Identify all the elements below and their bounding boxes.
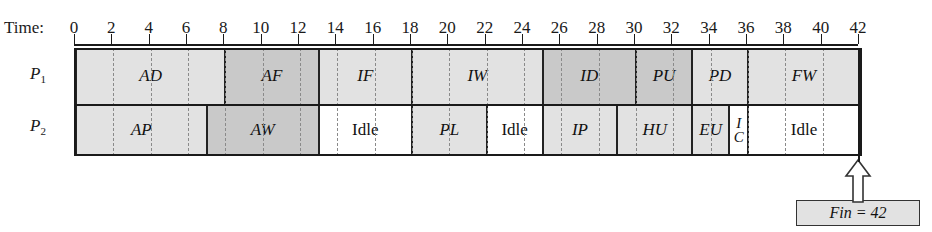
grid-dashed-line xyxy=(487,48,488,156)
segment-label-part: I xyxy=(736,116,741,130)
row-separator-2 xyxy=(76,154,860,156)
grid-dashed-line xyxy=(263,48,264,156)
tick-mark xyxy=(186,34,187,44)
row-index: 2 xyxy=(40,125,46,137)
grid-dashed-line xyxy=(599,48,600,156)
grid-dashed-line xyxy=(636,48,637,156)
segment-label: Idle xyxy=(791,120,817,140)
tick-mark xyxy=(783,34,784,44)
row-name: P xyxy=(30,64,40,83)
segment-label-part: C xyxy=(734,130,744,144)
timeline-segment-p1-af: AF xyxy=(225,48,318,104)
tick-mark xyxy=(149,34,150,44)
timeline-segment-p2-ip: IP xyxy=(543,104,618,156)
grid-dashed-line xyxy=(113,48,114,156)
tick-mark xyxy=(261,34,262,44)
up-arrow-icon xyxy=(843,158,873,204)
row-label-p2: P2 xyxy=(30,116,46,137)
axis-baseline xyxy=(74,44,858,46)
tick-mark xyxy=(634,34,635,44)
grid-dashed-line xyxy=(188,48,189,156)
axis-title: Time: xyxy=(4,18,44,38)
tick-mark xyxy=(746,34,747,44)
timing-diagram: Time: 0246810121416182022242628303234363… xyxy=(0,0,932,232)
segment-label: HU xyxy=(642,120,667,140)
grid-dashed-line xyxy=(823,48,824,156)
timeline-segment-p1-pu: PU xyxy=(636,48,692,104)
tick-mark xyxy=(223,34,224,44)
segment-label: FW xyxy=(792,66,817,86)
tick-mark xyxy=(671,34,672,44)
timeline-segment-p1-id: ID xyxy=(543,48,636,104)
segment-label: IW xyxy=(467,66,487,86)
row-label-p1: P1 xyxy=(30,64,46,85)
grid-dashed-line xyxy=(449,48,450,156)
segment-label: AP xyxy=(131,120,152,140)
grid-dashed-line xyxy=(300,48,301,156)
tick-mark xyxy=(597,34,598,44)
tick-mark xyxy=(111,34,112,44)
grid-dashed-line xyxy=(561,48,562,156)
tick-mark xyxy=(410,34,411,44)
segment-label: PD xyxy=(709,66,732,86)
grid-dashed-line xyxy=(673,48,674,156)
grid-dashed-line xyxy=(225,48,226,156)
row-separator-0 xyxy=(76,48,860,50)
grid-dashed-line xyxy=(711,48,712,156)
tick-mark xyxy=(485,34,486,44)
timeline-segment-p2-idle-2: Idle xyxy=(319,104,412,156)
timeline-segment-p2-hu: HU xyxy=(617,104,692,156)
tick-mark xyxy=(335,34,336,44)
segment-label: AF xyxy=(262,66,283,86)
grid-dashed-line xyxy=(524,48,525,156)
timeline-segment-p2-idle-4: Idle xyxy=(487,104,543,156)
timeline-segment-p2-idle-9: Idle xyxy=(748,104,860,156)
row-index: 1 xyxy=(40,73,46,85)
row-separator-1 xyxy=(76,104,860,106)
timeline-segment-p1-if: IF xyxy=(319,48,412,104)
timeline-segment-p1-pd: PD xyxy=(692,48,748,104)
segment-label: IF xyxy=(357,66,373,86)
segment-label: ID xyxy=(580,66,598,86)
timeline-segment-p2-ic: IC xyxy=(729,104,748,156)
tick-mark xyxy=(298,34,299,44)
segment-label: PU xyxy=(653,66,676,86)
grid-dashed-line xyxy=(785,48,786,156)
tick-mark xyxy=(821,34,822,44)
tick-mark xyxy=(559,34,560,44)
tick-mark xyxy=(858,34,859,44)
row-name: P xyxy=(30,116,40,135)
grid-dashed-line xyxy=(337,48,338,156)
segment-label: IP xyxy=(572,120,588,140)
tick-mark xyxy=(373,34,374,44)
tick-mark xyxy=(447,34,448,44)
timeline-segment-p1-fw: FW xyxy=(748,48,860,104)
tick-mark xyxy=(74,34,75,44)
chart-body: ADAFIFIWIDPUPDFWAPAWIdlePLIdleIPHUEUICId… xyxy=(74,48,862,156)
tick-mark xyxy=(709,34,710,44)
fin-guide-line xyxy=(858,48,860,162)
grid-dashed-line xyxy=(151,48,152,156)
tick-mark xyxy=(522,34,523,44)
grid-dashed-line xyxy=(375,48,376,156)
grid-dashed-line xyxy=(748,48,749,156)
grid-dashed-line xyxy=(412,48,413,156)
